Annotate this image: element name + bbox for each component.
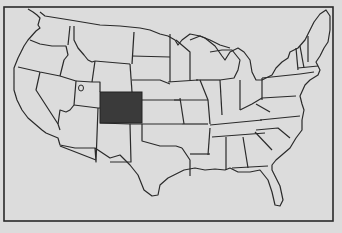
- border-va-nc: [260, 116, 300, 120]
- highlighted-state-colorado: [100, 92, 142, 123]
- border-wv-va: [256, 104, 270, 112]
- border-id-mt: [74, 26, 95, 62]
- border-nd-sd: [132, 56, 170, 57]
- border-ks-mo: [180, 98, 184, 124]
- border-az-nm: [95, 108, 98, 162]
- great-salt-lake: [79, 85, 84, 91]
- border-vt-nh: [300, 46, 304, 68]
- border-mi-lower: [210, 50, 240, 80]
- map-frame: [4, 7, 333, 221]
- border-wy-co-ut: [92, 82, 100, 92]
- border-mn-ia: [168, 80, 198, 82]
- border-pa-ny: [262, 74, 300, 78]
- border-id-ut: [76, 81, 92, 82]
- border-pa-md: [262, 96, 296, 98]
- border-ny-vt: [296, 48, 298, 70]
- border-il-in: [220, 80, 222, 115]
- border-wa-id: [68, 26, 70, 45]
- border-ga-fl: [232, 166, 268, 168]
- us-outline: [14, 9, 330, 206]
- border-wa-or: [30, 40, 66, 46]
- border-sd-ne: [132, 80, 170, 84]
- border-al-ga: [243, 137, 248, 168]
- border-ma: [298, 66, 318, 68]
- border-ky-tn: [210, 120, 262, 125]
- us-map: [0, 0, 342, 233]
- border-or-id: [60, 46, 68, 76]
- border-ut-az: [74, 105, 100, 108]
- border-ct-ri: [300, 72, 314, 74]
- border-ok-tx: [142, 124, 182, 148]
- border-ar-ms: [208, 128, 210, 155]
- border-ga-sc: [255, 132, 272, 150]
- border-tx-la: [182, 148, 190, 176]
- border-mt-nd: [132, 32, 134, 64]
- border-id-wy: [92, 61, 95, 82]
- border-ca-nv: [36, 72, 60, 130]
- border-il-mo: [200, 80, 210, 124]
- border-nv-ut: [58, 76, 76, 124]
- border-mn-wi: [176, 40, 190, 80]
- border-mt-wy: [95, 61, 130, 64]
- border-wy-sd-ne: [130, 64, 132, 92]
- border-oh-wv: [240, 98, 262, 110]
